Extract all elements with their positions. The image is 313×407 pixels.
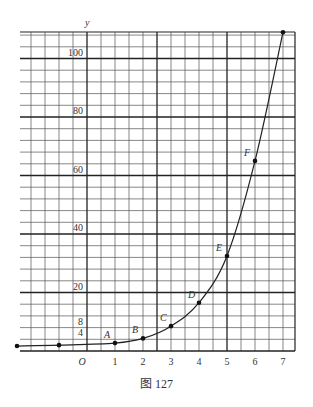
y-tick-label: 60 <box>73 164 83 175</box>
data-point <box>197 300 202 305</box>
y-tick-label: 40 <box>73 222 83 233</box>
x-tick-label: 6 <box>253 356 258 367</box>
point-label-d: D <box>187 289 196 300</box>
x-tick-label: 5 <box>225 356 230 367</box>
data-point <box>253 159 258 164</box>
x-tick-label: 7 <box>281 356 286 367</box>
data-point <box>281 30 286 35</box>
data-points: ABCDEF <box>15 30 286 348</box>
y-tick-label: 20 <box>73 281 83 292</box>
grid-major-lines <box>20 32 295 351</box>
point-label-f: F <box>243 147 251 158</box>
x-tick-label: 3 <box>169 356 174 367</box>
data-point <box>57 343 62 348</box>
x-tick-labels: 1234567 <box>113 356 286 367</box>
figure-caption: 图 127 <box>0 374 313 392</box>
curve-line <box>17 32 283 346</box>
data-point <box>225 254 230 259</box>
point-label-a: A <box>103 329 111 340</box>
y-tick-label: 8 <box>78 316 83 327</box>
origin-label: O <box>78 356 85 367</box>
exponential-curve-chart: ABCDEF 4820406080100 1234567 y O <box>0 0 313 407</box>
point-label-e: E <box>215 242 222 253</box>
x-tick-label: 2 <box>141 356 146 367</box>
y-tick-label: 4 <box>78 327 83 338</box>
y-axis-label: y <box>84 17 90 28</box>
data-point <box>169 324 174 329</box>
data-point <box>15 344 20 349</box>
x-tick-label: 1 <box>113 356 118 367</box>
y-tick-label: 80 <box>73 105 83 116</box>
data-point <box>141 336 146 341</box>
point-label-c: C <box>160 312 167 323</box>
data-point <box>113 341 118 346</box>
y-tick-labels: 4820406080100 <box>68 47 83 339</box>
x-tick-label: 4 <box>197 356 202 367</box>
y-tick-label: 100 <box>68 47 83 58</box>
point-label-b: B <box>132 324 138 335</box>
